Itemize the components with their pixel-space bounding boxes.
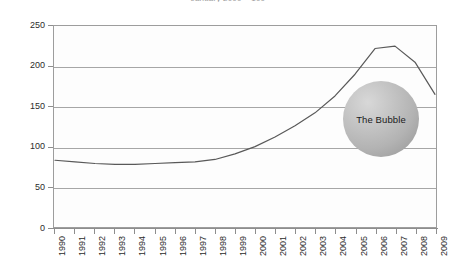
y-tick-label-250: 250 [5, 21, 45, 30]
x-tick-mark-1991 [74, 229, 75, 234]
x-tick-label-2009: 2009 [440, 236, 449, 256]
line-chart: January 2000 = 100 250200150100500 19901… [0, 0, 456, 280]
x-tick-mark-1997 [195, 229, 196, 234]
x-tick-label-1994: 1994 [138, 236, 147, 256]
x-tick-mark-1998 [215, 229, 216, 234]
x-tick-mark-2006 [376, 229, 377, 234]
x-tick-mark-2003 [315, 229, 316, 234]
y-tick-mark-0 [48, 228, 53, 229]
y-tick-label-100: 100 [5, 142, 45, 151]
y-tick-label-50: 50 [5, 183, 45, 192]
bubble-annotation: The Bubble [343, 81, 419, 157]
x-tick-label-1993: 1993 [118, 236, 127, 256]
x-tick-label-1997: 1997 [199, 236, 208, 256]
x-tick-mark-2002 [295, 229, 296, 234]
x-tick-mark-1996 [175, 229, 176, 234]
y-tick-label-0: 0 [5, 224, 45, 233]
x-tick-label-2004: 2004 [339, 236, 348, 256]
x-tick-label-2005: 2005 [360, 236, 369, 256]
x-tick-mark-1990 [54, 229, 55, 234]
x-tick-label-2007: 2007 [400, 236, 409, 256]
x-tick-mark-2005 [356, 229, 357, 234]
x-tick-label-1996: 1996 [179, 236, 188, 256]
x-tick-mark-1999 [235, 229, 236, 234]
x-tick-label-2002: 2002 [299, 236, 308, 256]
x-tick-label-1999: 1999 [239, 236, 248, 256]
x-tick-mark-2007 [396, 229, 397, 234]
y-tick-label-150: 150 [5, 102, 45, 111]
x-tick-mark-2008 [416, 229, 417, 234]
y-tick-label-200: 200 [5, 61, 45, 70]
x-tick-mark-1995 [155, 229, 156, 234]
x-tick-label-1998: 1998 [219, 236, 228, 256]
bubble-annotation-label: The Bubble [356, 114, 406, 125]
x-tick-label-2003: 2003 [319, 236, 328, 256]
x-tick-mark-2001 [275, 229, 276, 234]
x-tick-mark-1994 [134, 229, 135, 234]
x-tick-label-1995: 1995 [159, 236, 168, 256]
x-tick-label-1992: 1992 [98, 236, 107, 256]
x-tick-label-1991: 1991 [78, 236, 87, 256]
x-tick-label-2001: 2001 [279, 236, 288, 256]
x-tick-mark-2000 [255, 229, 256, 234]
x-tick-mark-2004 [335, 229, 336, 234]
x-tick-label-2008: 2008 [420, 236, 429, 256]
x-tick-mark-1992 [94, 229, 95, 234]
x-axis-line [53, 228, 438, 229]
chart-title: January 2000 = 100 [0, 0, 456, 2]
x-tick-mark-2009 [436, 229, 437, 234]
x-tick-mark-1993 [114, 229, 115, 234]
x-tick-label-1990: 1990 [58, 236, 67, 256]
x-tick-label-2006: 2006 [380, 236, 389, 256]
x-tick-label-2000: 2000 [259, 236, 268, 256]
